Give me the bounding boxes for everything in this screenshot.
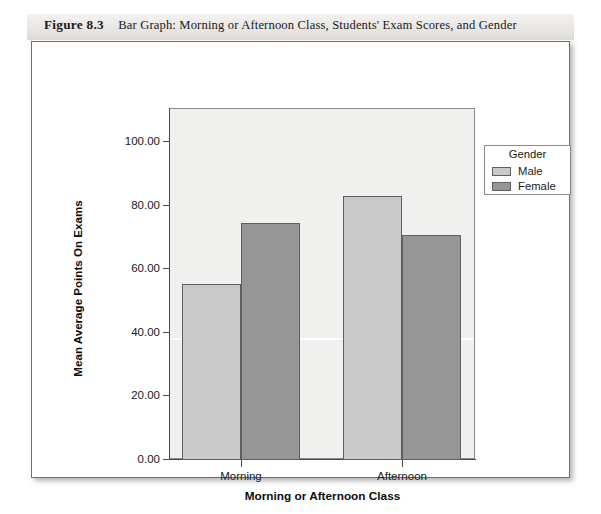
figure-caption: Figure 8.3 Bar Graph: Morning or Afterno… [44,17,574,37]
y-tick-3 [163,268,169,269]
legend-entry-male: Male [492,164,543,178]
bar-morning-female [241,223,300,460]
y-tick-label-5: 100.00 [94,135,160,147]
y-tick-4 [163,205,169,206]
figure-caption-title: Bar Graph: Morning or Afternoon Class, S… [118,18,517,32]
legend-label-male: Male [518,165,543,177]
y-tick-5 [163,141,169,142]
legend-label-female: Female [518,180,556,192]
y-tick-2 [163,332,169,333]
legend: Gender Male Female [484,145,571,195]
y-tick-label-3: 60.00 [94,262,160,274]
figure-caption-label: Figure 8.3 [44,17,104,32]
x-axis-title: Morning or Afternoon Class [169,489,476,503]
bar-morning-male [182,284,241,460]
x-tick-afternoon [402,460,403,467]
y-tick-1 [163,395,169,396]
y-tick-label-0: 0.00 [94,453,160,465]
x-tick-label-morning: Morning [181,470,301,482]
y-tick-label-2: 40.00 [94,326,160,338]
legend-title: Gender [485,148,570,160]
figure-card: 0.00 20.00 40.00 60.00 80.00 100.00 Mean… [31,41,570,478]
y-axis-line [169,108,170,460]
x-tick-label-afternoon: Afternoon [342,470,462,482]
legend-swatch-female-icon [492,182,511,191]
bar-afternoon-female [402,235,461,460]
legend-swatch-male-icon [492,167,511,176]
y-tick-label-4: 80.00 [94,199,160,211]
y-axis-title: Mean Average Points On Exams [71,174,84,404]
legend-entry-female: Female [492,179,556,193]
y-tick-label-1: 20.00 [94,389,160,401]
bar-afternoon-male [343,196,402,460]
x-tick-morning [241,460,242,467]
y-tick-0 [163,459,169,460]
